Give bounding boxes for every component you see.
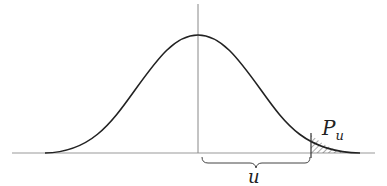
bell-curve (45, 35, 360, 153)
tail-probability-label: Pu (322, 116, 344, 143)
distance-label: u (248, 166, 260, 186)
normal-curve-diagram (0, 0, 387, 186)
